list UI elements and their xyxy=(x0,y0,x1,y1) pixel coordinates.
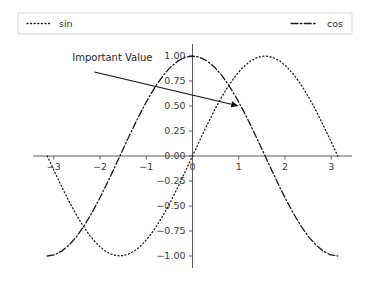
y-tick-label: 0.50 xyxy=(164,100,185,111)
x-tick-label: −2 xyxy=(93,161,107,172)
sin-cos-plot: −3−2−10123−1.00−0.75−0.50−0.250.000.250.… xyxy=(0,0,370,295)
y-tick-label: 0.25 xyxy=(164,125,185,136)
y-tick-label: −0.25 xyxy=(156,175,185,186)
chart-figure: −3−2−10123−1.00−0.75−0.50−0.250.000.250.… xyxy=(0,0,370,295)
legend-label-sin: sin xyxy=(59,18,73,29)
x-tick-label: 2 xyxy=(282,161,288,172)
legend-label-cos: cos xyxy=(327,18,343,29)
annotation-text: Important Value xyxy=(72,52,152,63)
chart-legend: sin cos xyxy=(18,13,352,34)
x-tick-label: −1 xyxy=(139,161,153,172)
y-tick-label: −1.00 xyxy=(156,250,185,261)
x-tick-label: 1 xyxy=(236,161,242,172)
y-tick-label: −0.75 xyxy=(156,225,185,236)
y-tick-label: 0.75 xyxy=(164,75,185,86)
x-tick-label: 3 xyxy=(328,161,334,172)
y-tick-label: 1.00 xyxy=(164,50,185,61)
